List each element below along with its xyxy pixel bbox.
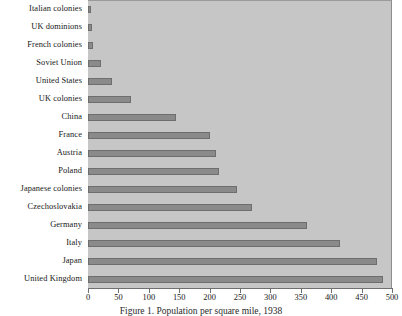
x-axis-tick-label: 100 bbox=[143, 294, 156, 302]
bar bbox=[88, 114, 176, 121]
x-axis-tick-label: 450 bbox=[355, 294, 368, 302]
bar-row bbox=[88, 109, 391, 127]
x-axis-tick-label: 400 bbox=[325, 294, 338, 302]
x-axis-tick-label: 500 bbox=[386, 294, 399, 302]
bar-row bbox=[88, 1, 391, 19]
bar-row bbox=[88, 127, 391, 145]
category-label: Czechoslovakia bbox=[0, 198, 86, 216]
bar-row bbox=[88, 216, 391, 234]
bar-row bbox=[88, 145, 391, 163]
category-label: France bbox=[0, 126, 86, 144]
x-axis-tick-label: 50 bbox=[114, 294, 122, 302]
bar-row bbox=[88, 234, 391, 252]
bar bbox=[88, 42, 93, 49]
figure-population-per-square-mile: Italian colonies UK dominions French col… bbox=[0, 0, 402, 316]
bar bbox=[88, 276, 383, 283]
bar-row bbox=[88, 37, 391, 55]
bar bbox=[88, 186, 237, 193]
category-label: Italian colonies bbox=[0, 0, 86, 18]
category-label-column: Italian colonies UK dominions French col… bbox=[0, 0, 86, 288]
bar bbox=[88, 240, 340, 247]
bar bbox=[88, 24, 92, 31]
bar-row bbox=[88, 252, 391, 270]
category-label: United Kingdom bbox=[0, 270, 86, 288]
category-label: China bbox=[0, 108, 86, 126]
x-axis-tick-label: 200 bbox=[203, 294, 216, 302]
bar-row bbox=[88, 19, 391, 37]
plot-area bbox=[88, 0, 392, 288]
bar bbox=[88, 78, 112, 85]
category-label: Poland bbox=[0, 162, 86, 180]
category-label: French colonies bbox=[0, 36, 86, 54]
bar-row bbox=[88, 91, 391, 109]
category-label: Japan bbox=[0, 252, 86, 270]
category-label: UK dominions bbox=[0, 18, 86, 36]
bar-row bbox=[88, 162, 391, 180]
bar-row bbox=[88, 73, 391, 91]
category-label: Japanese colonies bbox=[0, 180, 86, 198]
bar-row bbox=[88, 55, 391, 73]
bar bbox=[88, 6, 91, 13]
figure-caption: Figure 1. Population per square mile, 19… bbox=[0, 305, 402, 316]
x-axis-tick-label: 300 bbox=[264, 294, 277, 302]
bar bbox=[88, 204, 252, 211]
bar bbox=[88, 132, 210, 139]
x-axis-tick-label: 250 bbox=[234, 294, 247, 302]
category-label: Germany bbox=[0, 216, 86, 234]
x-axis-tick-label: 150 bbox=[173, 294, 186, 302]
bar bbox=[88, 60, 101, 67]
category-label: Austria bbox=[0, 144, 86, 162]
bar-row bbox=[88, 180, 391, 198]
bar bbox=[88, 258, 377, 265]
x-axis-tick-label: 0 bbox=[86, 294, 90, 302]
x-axis-tick-label: 350 bbox=[295, 294, 308, 302]
bar-row bbox=[88, 270, 391, 288]
category-label: Italy bbox=[0, 234, 86, 252]
category-label: United States bbox=[0, 72, 86, 90]
bar bbox=[88, 168, 219, 175]
bar bbox=[88, 222, 307, 229]
category-label: UK colonies bbox=[0, 90, 86, 108]
bar-series bbox=[88, 1, 391, 288]
category-label: Soviet Union bbox=[0, 54, 86, 72]
bar bbox=[88, 96, 131, 103]
bar-row bbox=[88, 198, 391, 216]
bar bbox=[88, 150, 216, 157]
